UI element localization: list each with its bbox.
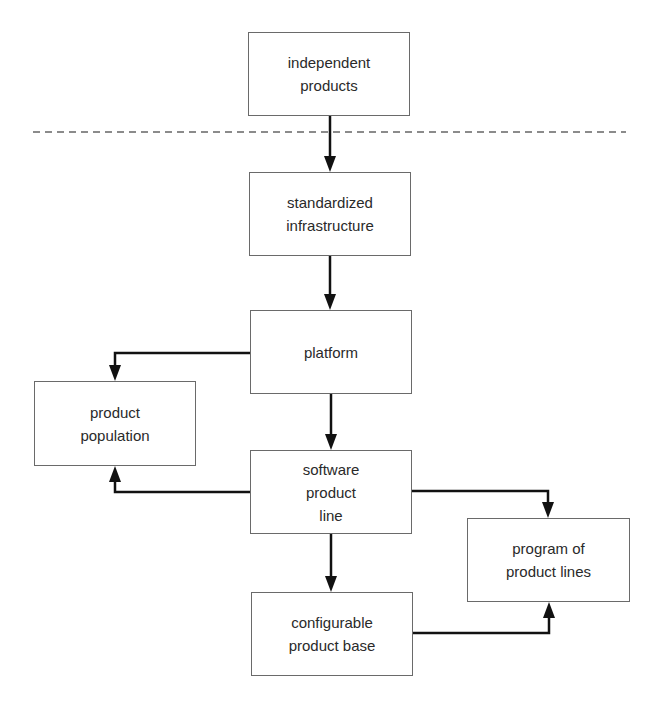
- arrowhead-up-icon: [109, 466, 121, 482]
- node-label: program of product lines: [506, 537, 591, 583]
- node-standardized-infrastructure: standardized infrastructure: [249, 172, 411, 256]
- arrow-platform-to-population: [115, 353, 250, 365]
- arrow-config-base-to-program: [413, 618, 549, 633]
- arrowhead-down-icon: [324, 156, 336, 172]
- node-program-of-product-lines: program of product lines: [467, 518, 630, 602]
- arrowhead-down-icon: [542, 502, 554, 518]
- arrowhead-down-icon: [324, 294, 336, 310]
- node-software-product-line: software product line: [250, 450, 412, 534]
- node-independent-products: independent products: [248, 32, 410, 116]
- node-label: software product line: [303, 458, 360, 527]
- node-configurable-product-base: configurable product base: [251, 592, 413, 676]
- node-label: standardized infrastructure: [286, 191, 374, 237]
- node-label: product population: [80, 401, 149, 447]
- arrowhead-down-icon: [325, 434, 337, 450]
- node-product-population: product population: [34, 381, 196, 466]
- arrowhead-up-icon: [543, 602, 555, 618]
- arrow-spl-to-population: [115, 482, 250, 492]
- arrowhead-down-icon: [109, 365, 121, 381]
- arrow-spl-to-program: [412, 491, 548, 502]
- product-line-evolution-diagram: independent products standardized infras…: [0, 0, 662, 704]
- node-label: configurable product base: [289, 611, 376, 657]
- arrowhead-down-icon: [325, 576, 337, 592]
- node-label: independent products: [288, 51, 371, 97]
- node-platform: platform: [250, 310, 412, 394]
- node-label: platform: [304, 341, 358, 364]
